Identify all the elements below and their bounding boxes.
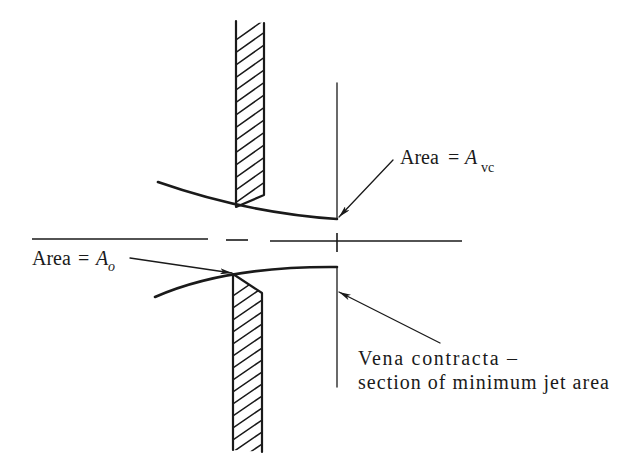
area-o-subscript: o (108, 259, 115, 274)
area-o-symbol: A (94, 247, 109, 269)
diagram-canvas: Area = A vc Area = A o Vena contracta – … (0, 0, 642, 472)
area-vc-prefix: Area (400, 146, 439, 168)
area-vc-symbol: A (463, 146, 478, 168)
area-vc-subscript: vc (481, 160, 494, 175)
vena-contracta-title: Vena contracta – (358, 347, 518, 369)
area-o-equals: = (78, 247, 89, 269)
vena-contracta-description: section of minimum jet area (358, 371, 609, 394)
orifice-diagram: Area = A vc Area = A o Vena contracta – … (0, 0, 642, 472)
area-o-prefix: Area (32, 247, 71, 269)
background (0, 0, 642, 472)
area-vc-equals: = (448, 146, 459, 168)
